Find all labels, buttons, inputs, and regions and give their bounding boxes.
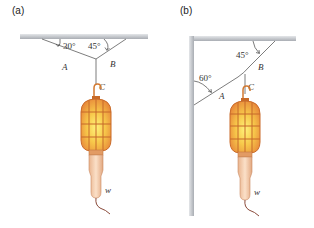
rope-label-b: B	[110, 59, 116, 69]
weight-label-b: w	[254, 187, 260, 197]
rope-label-a-b: A	[218, 91, 225, 101]
angle-arc-45-icon	[104, 39, 108, 50]
lamp-b: w	[230, 86, 260, 216]
cord-icon	[245, 200, 259, 216]
rope-label-b-b: B	[258, 62, 264, 72]
rope-label-a: A	[61, 62, 68, 72]
angle-a-label-b: 60°	[199, 73, 212, 83]
panel-a: 30° 45° A B C w	[20, 34, 148, 214]
lamp-handle-icon	[238, 157, 252, 200]
lamp-a: w	[81, 84, 111, 214]
angle-b-label: 45°	[88, 41, 101, 51]
panel-b: 45° 60° B A C w	[189, 36, 296, 216]
angle-arc-45b-icon	[253, 41, 259, 53]
diagram-canvas: 30° 45° A B C w	[0, 0, 314, 228]
wall-b	[189, 36, 194, 216]
cord-icon	[96, 198, 110, 214]
ceiling-a	[20, 34, 148, 39]
weight-label: w	[105, 185, 111, 195]
ceiling-b	[189, 36, 296, 41]
angle-a-label: 30°	[63, 41, 76, 51]
lamp-handle-icon	[89, 155, 103, 198]
angle-b-label-b: 45°	[236, 50, 249, 60]
rope-label-c: C	[99, 82, 106, 92]
hook-icon	[243, 86, 250, 100]
